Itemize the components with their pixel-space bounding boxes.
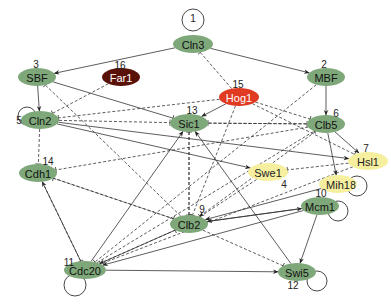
node-number: 15 — [232, 79, 244, 90]
node-cdh1[interactable]: Cdh114 — [19, 156, 57, 183]
node-number: 13 — [186, 105, 198, 116]
node-label: Clb2 — [178, 219, 201, 231]
edge-cdc20-to-swi5 — [106, 270, 278, 272]
edge-sbf-to-sic1 — [53, 82, 173, 118]
node-number: 1 — [190, 13, 196, 24]
node-sbf[interactable]: SBF3 — [18, 59, 56, 87]
node-label: Cln2 — [29, 115, 52, 127]
node-number: 5 — [16, 115, 22, 126]
edge-cln3-to-mbf — [211, 48, 310, 72]
node-number: 8 — [350, 180, 356, 191]
edge-hog1-to-clb5 — [255, 102, 310, 119]
node-label: Cln3 — [182, 39, 205, 51]
edge-cln2-to-sic1 — [59, 120, 170, 122]
edge-cdc20-to-clb5 — [97, 131, 314, 263]
node-label: SBF — [26, 72, 48, 84]
node-number: 14 — [42, 156, 54, 167]
node-hsl1[interactable]: Hsl17 — [348, 143, 388, 171]
network-diagram: Cln31MBF2SBF3Swe14Cln25Clb56Hsl17Mih18Cl… — [0, 0, 391, 307]
edge-cln2-to-cdh1 — [38, 129, 39, 164]
node-number: 11 — [64, 257, 75, 268]
edge-clb2-to-sbf — [45, 85, 180, 216]
node-number: 7 — [363, 143, 369, 154]
edge-clb5-to-sic1 — [208, 123, 307, 124]
node-mbf[interactable]: MBF2 — [307, 59, 345, 87]
edge-cdc20-to-sic1 — [91, 132, 183, 262]
node-number: 2 — [321, 59, 327, 70]
edge-cdc20-to-clb2 — [100, 230, 175, 263]
edge-sbf-to-cln2 — [38, 86, 40, 111]
node-label: Swe1 — [254, 167, 282, 179]
edge-mcm1-to-swi5 — [300, 215, 317, 263]
graph-canvas: Cln31MBF2SBF3Swe14Cln25Clb56Hsl17Mih18Cl… — [0, 0, 391, 307]
edge-clb5-to-hsl1 — [335, 132, 359, 153]
node-swi5[interactable]: Swi512 — [278, 263, 316, 291]
edge-hsl1-to-swe1 — [287, 163, 348, 170]
node-label: Clb5 — [315, 119, 338, 131]
edge-swi5-to-sic1 — [195, 132, 291, 264]
node-label: Hsl1 — [357, 156, 379, 168]
edge-sic1-to-clb5 — [208, 123, 307, 124]
node-hog1[interactable]: Hog115 — [219, 79, 259, 107]
node-number: 9 — [199, 204, 205, 215]
node-sic1[interactable]: Sic113 — [170, 105, 208, 133]
node-label: Mcm1 — [305, 201, 335, 213]
node-swe1[interactable]: Swe14 — [248, 163, 288, 190]
node-number: 3 — [33, 59, 39, 70]
edge-swe1-to-clb2 — [200, 179, 257, 216]
edge-hsl1-to-cdc20 — [101, 167, 353, 264]
edge-clb2-to-swi5 — [203, 230, 283, 266]
node-far1[interactable]: Far116 — [102, 60, 140, 87]
node-cdc20[interactable]: Cdc2011 — [64, 257, 106, 280]
node-number: 12 — [287, 280, 299, 291]
node-number: 6 — [333, 108, 339, 119]
node-label: Hog1 — [226, 92, 252, 104]
node-number: 16 — [114, 60, 126, 71]
node-label: Cdh1 — [25, 168, 51, 180]
node-cln3[interactable]: Cln31 — [173, 13, 213, 54]
edge-hog1-to-sic1 — [202, 104, 226, 117]
edge-hog1-to-cln3 — [200, 52, 231, 88]
node-number: 10 — [315, 188, 327, 199]
edge-clb5-to-mih1 — [328, 133, 336, 175]
edge-far1-to-cln2 — [53, 84, 109, 114]
node-label: Swi5 — [285, 267, 309, 279]
node-label: Far1 — [110, 72, 133, 84]
node-label: Sic1 — [178, 118, 199, 130]
node-label: MBF — [314, 72, 338, 84]
node-label: Mih1 — [326, 179, 350, 191]
node-number: 4 — [281, 179, 287, 190]
node-cln2[interactable]: Cln25 — [16, 111, 59, 129]
